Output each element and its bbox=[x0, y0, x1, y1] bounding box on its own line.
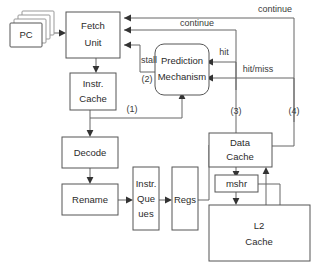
node-l2-cache[interactable]: L2 Cache bbox=[209, 205, 310, 261]
instr-queues-label-line1: Instr. bbox=[136, 178, 157, 189]
label-marker-3: (3) bbox=[231, 106, 242, 116]
architecture-diagram: PC Fetch Unit Instr. Cache Prediction Me… bbox=[0, 0, 323, 274]
arrowhead-rename-to-iqueues bbox=[126, 197, 133, 204]
arrowhead-continue-inner bbox=[124, 27, 131, 34]
edge-mshr-right-stub bbox=[258, 184, 280, 205]
node-decode[interactable]: Decode bbox=[62, 137, 118, 168]
mshr-label: mshr bbox=[226, 178, 247, 189]
rename-label: Rename bbox=[72, 194, 108, 205]
label-marker-1: (1) bbox=[127, 104, 138, 114]
prediction-mechanism-label-line2: Mechanism bbox=[158, 71, 207, 82]
node-pc[interactable]: PC bbox=[10, 11, 54, 47]
edge-dcache-to-marker4 bbox=[272, 122, 294, 146]
arrowhead-continue-outer bbox=[124, 15, 131, 22]
arrowhead-iqueues-to-regs bbox=[165, 197, 172, 204]
node-instr-cache[interactable]: Instr. Cache bbox=[70, 73, 116, 110]
arrowhead-decode-to-rename bbox=[87, 177, 94, 184]
node-prediction-mechanism[interactable]: Prediction Mechanism bbox=[155, 44, 209, 95]
node-fetch-unit[interactable]: Fetch Unit bbox=[66, 12, 120, 58]
instr-queues-label-line2: Que bbox=[137, 193, 155, 204]
arrowhead-l2-to-dcache bbox=[263, 167, 270, 174]
label-continue-inner: continue bbox=[180, 18, 214, 28]
node-regs[interactable]: Regs bbox=[172, 167, 198, 230]
label-hit-miss: hit/miss bbox=[243, 64, 274, 74]
label-continue-top: continue bbox=[258, 4, 292, 14]
prediction-mechanism-label-line1: Prediction bbox=[161, 55, 203, 66]
label-marker-4: (4) bbox=[289, 106, 300, 116]
data-cache-label-line1: Data bbox=[230, 137, 251, 148]
l2-cache-label-line1: L2 bbox=[254, 220, 265, 231]
regs-label: Regs bbox=[174, 194, 196, 205]
node-rename[interactable]: Rename bbox=[62, 184, 118, 215]
label-marker-2: (2) bbox=[142, 74, 153, 84]
data-cache-label-line2: Cache bbox=[226, 151, 253, 162]
diagram-canvas: PC Fetch Unit Instr. Cache Prediction Me… bbox=[0, 0, 323, 274]
label-stall: stall bbox=[141, 55, 157, 65]
arrowhead-pc-to-fetch bbox=[59, 30, 66, 37]
pc-label: PC bbox=[19, 29, 32, 40]
l2-cache-label-line2: Cache bbox=[245, 236, 272, 247]
arrowhead-mshr-to-l2 bbox=[233, 198, 240, 205]
fetch-unit-label-line2: Unit bbox=[85, 37, 102, 48]
l2-cache-box bbox=[209, 205, 310, 261]
instr-cache-label-line1: Instr. bbox=[83, 78, 104, 89]
label-hit: hit bbox=[219, 47, 229, 57]
prediction-mechanism-box bbox=[155, 44, 209, 95]
instr-cache-label-line2: Cache bbox=[79, 93, 106, 104]
arrowhead-fetch-to-icache bbox=[93, 66, 100, 73]
node-mshr[interactable]: mshr bbox=[215, 175, 258, 192]
arrowhead-icache-to-decode bbox=[87, 130, 94, 137]
arrowhead-stall bbox=[124, 42, 131, 49]
instr-queues-label-line3: ues bbox=[138, 208, 154, 219]
node-instr-queues[interactable]: Instr. Que ues bbox=[133, 167, 159, 230]
node-data-cache[interactable]: Data Cache bbox=[209, 133, 272, 167]
fetch-unit-label-line1: Fetch bbox=[81, 20, 105, 31]
decode-label: Decode bbox=[74, 147, 107, 158]
